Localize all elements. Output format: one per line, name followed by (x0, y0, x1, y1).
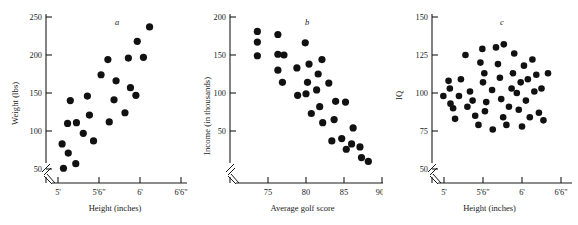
panel-b: Income (in thousands) Average golf score… (190, 0, 383, 225)
panel-a-points (59, 23, 154, 172)
data-point (315, 70, 322, 77)
data-point (84, 92, 91, 99)
panel-a-xticks: 5' 5'6" 6' 6'6" (55, 177, 187, 197)
data-point (450, 105, 457, 112)
panel-c-ytick-100: 100 (416, 89, 428, 98)
data-point (495, 61, 502, 68)
panel-a-xlabel: Height (inches) (40, 203, 190, 213)
data-point (90, 137, 97, 144)
data-point (125, 54, 132, 61)
data-point (477, 59, 484, 66)
panel-b-ytick-100: 100 (214, 89, 226, 98)
data-point (497, 75, 504, 82)
data-point (447, 85, 454, 92)
data-point (469, 97, 476, 104)
data-point (527, 114, 534, 121)
data-point (59, 140, 66, 147)
panel-a-xtick-5ft: 5' (55, 188, 61, 197)
data-point (110, 96, 117, 103)
data-point (134, 38, 141, 45)
data-point (545, 70, 552, 77)
panel-a-xtick-6ft: 6' (137, 188, 143, 197)
data-point (521, 62, 528, 69)
data-point (519, 123, 526, 130)
data-point (445, 78, 452, 85)
panel-c-yticks: 150 125 100 75 50 (416, 13, 438, 174)
panel-c-ytick-50: 50 (420, 165, 428, 174)
data-point (511, 50, 518, 57)
data-point (318, 56, 325, 63)
data-point (472, 113, 479, 120)
panel-a-xtick-6ft6in: 6'6" (174, 188, 187, 197)
panel-b-xtick-80: 80 (302, 188, 310, 197)
data-point (72, 160, 79, 167)
data-point (254, 52, 261, 59)
panel-b-xtick-85: 85 (340, 188, 348, 197)
data-point (350, 124, 357, 131)
data-point (80, 130, 87, 137)
data-point (467, 88, 474, 95)
data-point (132, 92, 139, 99)
data-point (342, 99, 349, 106)
data-point (458, 76, 465, 83)
data-point (112, 77, 119, 84)
panel-a-ytick-200: 200 (30, 51, 42, 60)
data-point (73, 119, 80, 126)
data-point (294, 92, 301, 99)
panel-b-xtick-75: 75 (264, 188, 272, 197)
data-point (67, 97, 74, 104)
panel-c-xticks: 5' 5'6" 6' 6'6" (441, 177, 567, 197)
data-point (280, 51, 287, 58)
panel-c-letter: c (500, 17, 504, 27)
data-point (348, 140, 355, 147)
data-point (525, 76, 532, 83)
data-point (464, 103, 471, 110)
data-point (475, 122, 482, 129)
panel-a-ytick-100: 100 (30, 127, 42, 136)
data-point (308, 110, 315, 117)
data-point (343, 146, 350, 153)
panel-b-xlabel: Average golf score (225, 203, 380, 213)
panel-c-points (440, 41, 551, 133)
data-point (483, 99, 490, 106)
data-point (479, 46, 486, 53)
data-point (503, 122, 510, 129)
panel-b-ytick-200: 200 (214, 13, 226, 22)
panel-c: IQ Height (inches) 150 125 100 75 50 (382, 0, 575, 225)
data-point (338, 135, 345, 142)
panel-c-plot: 150 125 100 75 50 5' 5'6" 6' 6'6" c (382, 0, 578, 200)
data-point (506, 103, 513, 110)
panel-b-points (254, 28, 372, 165)
data-point (319, 119, 326, 126)
panel-a-yticks: 250 200 150 100 50 (30, 13, 52, 174)
panel-b-ytick-150: 150 (214, 51, 226, 60)
data-point (358, 154, 365, 161)
panel-c-xtick-6ft: 6' (519, 188, 525, 197)
data-point (279, 79, 286, 86)
panel-c-ytick-125: 125 (416, 51, 428, 60)
panel-c-xtick-5ft6in: 5'6" (476, 188, 489, 197)
data-point (274, 31, 281, 38)
data-point (365, 158, 372, 165)
data-point (104, 56, 111, 63)
panel-a-plot: 250 200 150 100 50 5' 5'6" 6' 6'6" a (0, 0, 193, 200)
data-point (529, 56, 536, 63)
panel-a-ytick-250: 250 (30, 13, 42, 22)
panel-b-yticks: 200 150 100 50 (214, 13, 236, 136)
data-point (440, 93, 447, 100)
data-point (274, 67, 281, 74)
data-point (313, 86, 320, 93)
panel-c-xtick-6ft6in: 6'6" (554, 188, 567, 197)
data-point (523, 97, 530, 104)
panel-a-ytick-50: 50 (34, 165, 42, 174)
data-point (356, 143, 363, 150)
data-point (325, 80, 332, 87)
panel-b-letter: b (305, 17, 309, 27)
scatterplot-figure: Weight (lbs) Height (inches) 250 200 150… (0, 0, 578, 225)
data-point (514, 90, 521, 97)
data-point (302, 90, 309, 97)
panel-b-xticks: 75 80 85 90 (264, 177, 383, 197)
data-point (501, 41, 508, 48)
data-point (538, 85, 545, 92)
panel-a-ytick-150: 150 (30, 89, 42, 98)
